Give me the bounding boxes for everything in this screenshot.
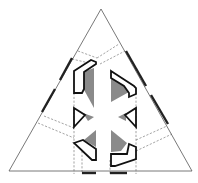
outer-triangle [9, 9, 192, 171]
triangle-mid-right [125, 108, 136, 127]
triangle-diagram [0, 0, 198, 183]
dashed-construction-lines [38, 44, 172, 174]
triangle-mid-left [74, 108, 85, 127]
bold-edge-segments [42, 51, 168, 173]
outlined-shapes [74, 60, 136, 166]
